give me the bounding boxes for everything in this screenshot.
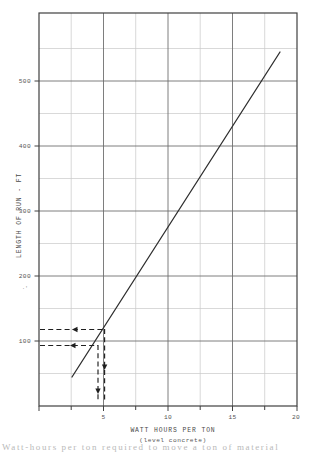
stray-mark: ·' [22,286,28,292]
x-tick-label-15: 15 [228,414,236,421]
x-tick-label-10: 10 [164,414,172,421]
chart-figure: 100 200 300 400 500 5 10 15 20 ·' LENGTH… [0,0,311,453]
y-tick-label-100: 100 [19,338,31,345]
y-tick-label-200: 200 [19,273,31,280]
annotation-arrow-down-4-6 [95,389,100,395]
annotation-arrow-right-85 [70,343,76,348]
x-tick-label-5: 5 [101,414,105,421]
grid-major [39,13,297,406]
x-axis-title: WATT HOURS PER TON [130,427,215,434]
page-caption-fragment: Watt-hours per ton required to move a to… [0,442,311,453]
y-tick-label-500: 500 [19,78,31,85]
y-tick-label-400: 400 [19,143,31,150]
x-axis-ticks [39,406,297,411]
x-tick-label-20: 20 [292,414,300,421]
chart-svg: 100 200 300 400 500 5 10 15 20 ·' LENGTH… [0,0,311,453]
annotation-arrow-right-110 [72,327,78,332]
y-axis-title: LENGTH OF RUN - FT [16,173,23,258]
y-axis-ticks [35,81,40,341]
annotation-arrow-down-5-05 [102,365,107,371]
